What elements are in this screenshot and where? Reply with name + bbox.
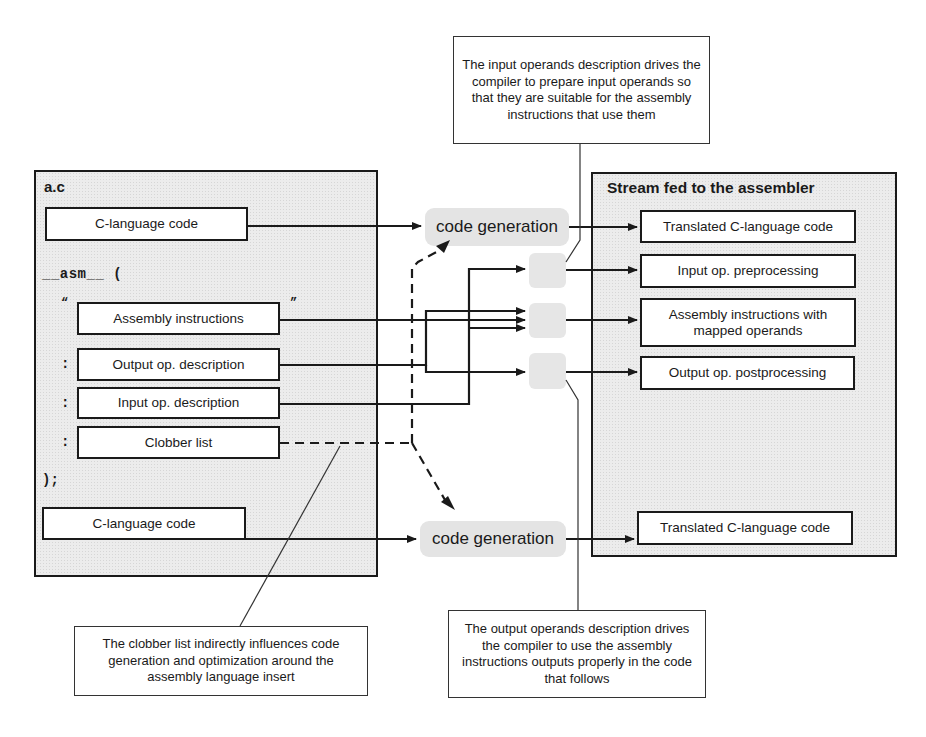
- input-preprocessing-box: Input op. preprocessing: [640, 254, 856, 288]
- input-processing-node: [529, 253, 566, 288]
- c-code-top-box: C-language code: [45, 207, 248, 241]
- asm-keyword: __asm__ (: [42, 266, 122, 282]
- colon-clobber: :: [61, 434, 69, 450]
- mapped-assembly-box: Assembly instructions with mapped operan…: [640, 298, 856, 347]
- clobber-list-box: Clobber list: [77, 426, 280, 459]
- close-paren: );: [42, 472, 59, 488]
- colon-output: :: [61, 356, 69, 372]
- colon-input: :: [61, 395, 69, 411]
- translated-c-code-top-box: Translated C-language code: [640, 210, 856, 243]
- code-generation-bottom-node: code generation: [420, 521, 566, 557]
- output-processing-node: [529, 353, 566, 389]
- assembly-instructions-box: Assembly instructions: [77, 302, 280, 335]
- output-operands-callout: The output operands description drives t…: [448, 610, 706, 698]
- code-generation-top-node: code generation: [425, 208, 569, 246]
- output-postprocessing-box: Output op. postprocessing: [640, 356, 855, 390]
- input-description-box: Input op. description: [77, 387, 280, 419]
- c-code-bottom-box: C-language code: [42, 507, 246, 540]
- source-file-title: a.c: [44, 178, 65, 195]
- open-quote: “: [61, 296, 68, 310]
- close-quote: ”: [290, 296, 297, 310]
- assembler-stream-title: Stream fed to the assembler: [607, 179, 815, 197]
- input-operands-callout: The input operands description drives th…: [453, 36, 710, 144]
- translated-c-code-bottom-box: Translated C-language code: [637, 511, 853, 545]
- output-description-box: Output op. description: [77, 348, 280, 381]
- operand-mapping-node: [529, 303, 566, 338]
- clobber-list-callout: The clobber list indirectly influences c…: [74, 626, 368, 696]
